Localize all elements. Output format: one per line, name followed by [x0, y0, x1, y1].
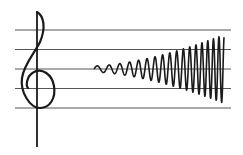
- staff-figure: [0, 0, 243, 155]
- music-staff-diagram: [0, 0, 243, 155]
- growing-wave: [94, 37, 224, 103]
- treble-clef-icon: [22, 12, 55, 147]
- clef-curve: [22, 12, 55, 108]
